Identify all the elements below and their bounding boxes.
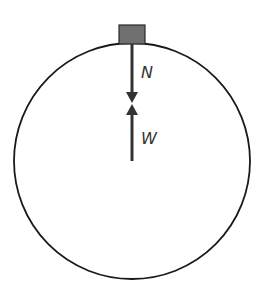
weight-label: W bbox=[141, 129, 158, 148]
weight-arrow bbox=[126, 104, 138, 161]
block bbox=[119, 25, 145, 44]
normal-force-label: N bbox=[141, 63, 153, 82]
normal-force-arrow bbox=[126, 44, 138, 103]
diagram-canvas: N W bbox=[0, 0, 261, 293]
free-body-diagram: N W bbox=[0, 0, 261, 293]
